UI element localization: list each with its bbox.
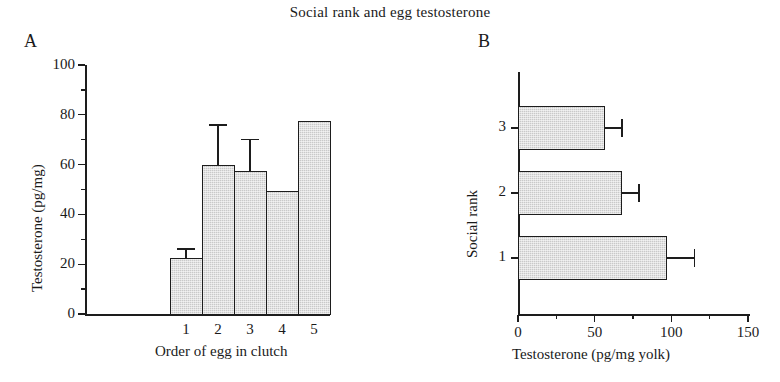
panel-a-y-tick-label: 60	[27, 157, 75, 172]
panel-a-y-tick-minor	[81, 239, 85, 240]
panel-b-error-bar-stem	[667, 257, 695, 259]
panel-a-y-tick-major	[78, 164, 85, 165]
panel-b-x-tick-minor	[632, 315, 633, 319]
panel-a-y-axis	[85, 65, 87, 315]
panel-b-y-tick-label: 3	[470, 119, 506, 134]
panel-a-error-bar-cap	[177, 248, 195, 250]
panel-b-x-tick-major	[517, 315, 518, 322]
panel-a-y-tick-minor	[81, 288, 85, 289]
panel-b-x-tick-minor	[556, 315, 557, 319]
panel-b-bar	[518, 236, 667, 280]
panel-a-error-bar-stem	[249, 140, 251, 171]
panel-a-bar	[170, 258, 203, 315]
panel-a-y-tick-label: 20	[27, 256, 75, 271]
panel-a-y-tick-label: 0	[27, 306, 75, 321]
panel-b-error-bar-stem	[622, 192, 639, 194]
panel-b-x-tick-major	[671, 315, 672, 322]
panel-a-y-tick-major	[78, 64, 85, 65]
panel-a-y-tick-minor	[81, 189, 85, 190]
panel-b-bar	[518, 171, 622, 215]
panel-a-y-tick-major	[78, 214, 85, 215]
panel-b-x-axis-title: Testosterone (pg/mg yolk)	[512, 347, 670, 362]
panel-b-y-tick-major	[511, 127, 518, 128]
panel-a-x-tick-label: 5	[294, 322, 334, 337]
panel-b-y-tick-label: 1	[470, 249, 506, 264]
panel-b-error-bar-cap	[694, 249, 696, 267]
panel-a-y-tick-minor	[81, 139, 85, 140]
panel-a: A Testosterone (pg/mg) 02040608010012345…	[0, 0, 390, 382]
panel-a-error-bar-stem	[217, 125, 219, 165]
panel-a-x-axis-title: Order of egg in clutch	[155, 344, 287, 359]
panel-b-error-bar-cap	[621, 119, 623, 137]
panel-b-bar	[518, 106, 605, 150]
panel-a-y-tick-label: 80	[27, 107, 75, 122]
panel-a-bar	[266, 191, 299, 315]
panel-a-error-bar-cap	[209, 124, 227, 126]
panel-b-x-tick-label: 0	[493, 325, 543, 340]
panel-b-x-tick-major	[747, 315, 748, 322]
panel-a-y-tick-major	[78, 264, 85, 265]
panel-a-error-bar-cap	[241, 139, 259, 141]
panel-b-error-bar-stem	[605, 127, 622, 129]
panel-b-x-tick-major	[594, 315, 595, 322]
panel-a-error-bar-stem	[185, 249, 187, 258]
panel-b-x-tick-label: 100	[646, 325, 696, 340]
panel-a-plot-area: 02040608010012345	[0, 0, 390, 382]
panel-a-bar	[202, 165, 235, 315]
panel-b-x-tick-minor	[709, 315, 710, 319]
panel-b: B Social rank 050100150123 Testosterone …	[390, 0, 780, 382]
panel-b-x-tick-label: 50	[570, 325, 620, 340]
panel-b-error-bar-cap	[638, 184, 640, 202]
panel-a-y-tick-minor	[81, 89, 85, 90]
panel-b-x-axis	[518, 314, 750, 316]
panel-a-y-tick-label: 100	[27, 57, 75, 72]
panel-b-y-tick-major	[511, 257, 518, 258]
panel-a-y-tick-label: 40	[27, 206, 75, 221]
panel-b-y-tick-label: 2	[470, 184, 506, 199]
panel-a-y-tick-major	[78, 313, 85, 314]
panel-b-plot-area: 050100150123	[390, 0, 780, 382]
panel-b-x-tick-label: 150	[723, 325, 773, 340]
panel-a-bar	[298, 121, 331, 315]
panel-b-y-tick-major	[511, 192, 518, 193]
panel-a-y-tick-major	[78, 114, 85, 115]
panel-a-bar	[234, 171, 267, 315]
